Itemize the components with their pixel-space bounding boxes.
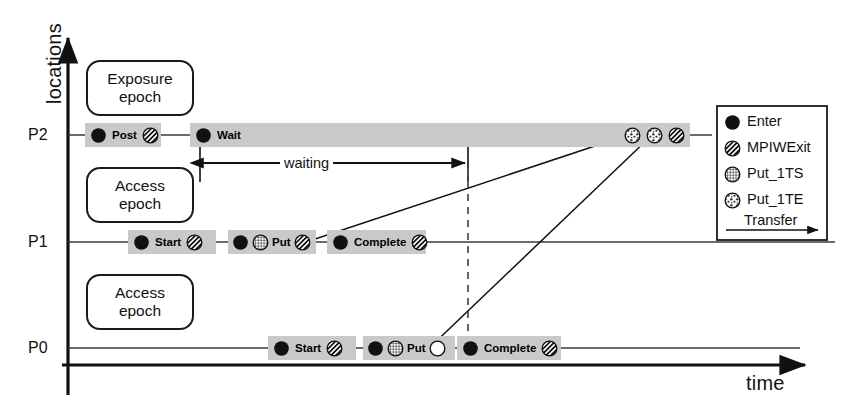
event-box-p0-complete[interactable]: Complete — [457, 336, 561, 360]
enter-icon — [462, 340, 479, 357]
mpiwexit-icon — [294, 234, 311, 251]
mpiwexit-icon — [724, 140, 741, 157]
epoch-box-exposure: Exposure epoch — [86, 60, 194, 116]
mpiwexit-icon — [668, 127, 685, 144]
enter-icon — [724, 114, 741, 131]
event-box-p0-put[interactable]: Put — [363, 336, 455, 360]
event-label: Start — [295, 342, 321, 354]
legend-label-enter: Enter — [747, 113, 782, 129]
put-1ts-icon — [724, 166, 741, 183]
event-box-p2-post[interactable]: Post — [85, 123, 161, 147]
event-box-p1-complete[interactable]: Complete — [327, 230, 426, 254]
axis-tick-p2: P2 — [28, 126, 48, 144]
enter-icon — [195, 127, 212, 144]
epoch-line-1: Access — [115, 284, 165, 302]
diagram-canvas: locations time P2 P1 P0 Exposure epoch A… — [0, 0, 863, 406]
epoch-line-1: Exposure — [107, 70, 172, 88]
waiting-annotation-label: waiting — [280, 155, 333, 171]
event-box-p1-put[interactable]: Put — [228, 230, 316, 254]
epoch-box-access-p1: Access epoch — [86, 167, 194, 223]
mpiwexit-icon — [142, 127, 159, 144]
legend-label-put-1ts: Put_1TS — [747, 165, 803, 181]
blank-icon — [429, 340, 446, 357]
event-label: Start — [155, 236, 181, 248]
enter-icon — [273, 340, 290, 357]
axis-tick-p1: P1 — [28, 233, 48, 251]
put-1te-icon — [724, 192, 741, 209]
event-label: Complete — [484, 342, 536, 354]
y-axis-label: locations — [43, 4, 66, 124]
enter-icon — [133, 234, 150, 251]
epoch-box-access-p0: Access epoch — [86, 274, 194, 330]
epoch-line-2: epoch — [119, 195, 161, 213]
epoch-line-1: Access — [115, 177, 165, 195]
enter-icon — [332, 234, 349, 251]
legend-label-transfer: Transfer — [744, 212, 797, 228]
mpiwexit-icon — [541, 340, 558, 357]
epoch-line-2: epoch — [119, 302, 161, 320]
event-label: Put — [407, 342, 426, 354]
put-1ts-icon — [387, 340, 404, 357]
event-label: Complete — [354, 236, 406, 248]
event-box-p0-start[interactable]: Start — [268, 336, 356, 360]
legend-label-mpiwexit: MPIWExit — [747, 139, 811, 155]
event-label: Wait — [217, 129, 241, 141]
enter-icon — [232, 234, 249, 251]
event-label: Put — [272, 236, 291, 248]
event-box-p1-start[interactable]: Start — [128, 230, 216, 254]
put-1te-icon — [624, 127, 641, 144]
x-axis-label: time — [746, 372, 785, 395]
enter-icon — [90, 127, 107, 144]
enter-icon — [367, 340, 384, 357]
legend-label-put-1te: Put_1TE — [747, 191, 803, 207]
put-1ts-icon — [252, 234, 269, 251]
put-1te-icon — [646, 127, 663, 144]
event-box-p2-wait[interactable]: Wait — [190, 123, 690, 147]
mpiwexit-icon — [186, 234, 203, 251]
event-label: Post — [112, 129, 137, 141]
axis-tick-p0: P0 — [28, 339, 48, 357]
epoch-line-2: epoch — [119, 88, 161, 106]
mpiwexit-icon — [411, 234, 428, 251]
mpiwexit-icon — [326, 340, 343, 357]
